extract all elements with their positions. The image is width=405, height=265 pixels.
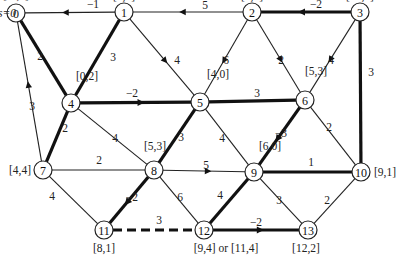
edge-weight-10-13: 2	[324, 194, 330, 206]
edge-weight-1-5: 4	[174, 54, 180, 66]
node-label-11: [8,1]	[93, 242, 115, 255]
node-11: 11	[95, 221, 113, 239]
edge-weight-4-7: 2	[62, 122, 68, 134]
edge-4-5	[80, 102, 191, 103]
edge-weight-7-11: 4	[49, 190, 55, 202]
node-label-13: [12,2]	[292, 242, 320, 255]
edge-9-12	[210, 179, 248, 223]
edge-7-11	[49, 176, 97, 223]
edge-weight-12-13: −2	[250, 216, 262, 228]
edge-weight-4-5: −2	[126, 87, 138, 99]
edge-weight-5-9: 4	[219, 132, 225, 144]
edge-weight-7-8: 2	[96, 154, 102, 166]
node-7: 7	[34, 161, 52, 179]
node-12: 12	[195, 221, 213, 239]
node-id: 10	[355, 166, 367, 180]
node-id: 9	[251, 166, 257, 180]
node-6: 6	[296, 91, 314, 109]
edge-weight-8-11: −2	[126, 191, 138, 203]
edge-6-10	[311, 107, 356, 165]
node-label-0: [ · ,0]	[3, 0, 29, 2]
edge-weight-0-4: 2	[37, 50, 43, 62]
node-label-9: [6,0]	[259, 140, 281, 153]
node-id: 1	[121, 6, 127, 20]
edge-weight-6-10: 2	[326, 121, 332, 133]
node-label-5: [4,0]	[207, 68, 229, 81]
edge-weight-4-8: 4	[112, 132, 118, 144]
node-id: 7	[40, 164, 46, 178]
edge-weight-2-6: 2	[278, 54, 284, 66]
edge-weight-2-5: 6	[223, 54, 229, 66]
node-id: 11	[98, 224, 110, 238]
edge-weight-5-6: 3	[254, 87, 260, 99]
edge-weight-3-2: −2	[310, 0, 322, 10]
source-label: s=0	[0, 7, 16, 19]
edge-weight-3-6: 4	[328, 54, 334, 66]
node-id: 13	[302, 224, 314, 238]
node-1: 1	[115, 3, 133, 21]
edge-4-7	[46, 111, 67, 161]
node-5: 5	[191, 93, 209, 111]
edge-weight-2-1: 5	[202, 0, 208, 11]
edge-weight-11-12: 3	[156, 214, 162, 226]
edge-5-9	[205, 109, 248, 165]
edge-weight-3-10: 3	[368, 66, 374, 78]
node-label-6: [5,3]	[305, 65, 327, 78]
node-13: 13	[299, 221, 317, 239]
shortest-path-graph: 012345678910111213 s=0 −15−22346243−2332…	[0, 0, 405, 265]
edge-weight-5-8: 3	[178, 131, 184, 143]
edge-weight-7-0: 3	[29, 100, 35, 112]
edge-weight-1-0: −1	[87, 0, 99, 10]
edge-weight-9-12: 4	[217, 189, 223, 201]
node-id: 12	[198, 224, 210, 238]
node-id: 2	[249, 6, 255, 20]
arrow-icon-3-2	[298, 8, 305, 15]
node-label-10: [9,1]	[374, 166, 396, 179]
edge-weight-9-10: 1	[308, 156, 314, 168]
node-id: 4	[68, 97, 74, 111]
arrow-icon-7-0	[26, 81, 32, 88]
edge-7-0	[18, 22, 42, 161]
edge-weight-8-12: 6	[177, 191, 183, 203]
node-2: 2	[243, 3, 261, 21]
edge-1-5	[130, 19, 194, 95]
edge-5-6	[209, 100, 296, 102]
edge-5-8	[159, 109, 195, 162]
edge-weight-8-9: 5	[203, 159, 209, 171]
edge-weight-9-13: 3	[276, 194, 282, 206]
node-4: 4	[62, 94, 80, 112]
arrow-icon-4-5	[138, 99, 145, 106]
node-10: 10	[352, 163, 370, 181]
edge-weight-1-4: 3	[110, 51, 116, 63]
node-8: 8	[145, 161, 163, 179]
node-id: 3	[357, 6, 363, 20]
edge-weight-6-9: −3	[275, 127, 287, 139]
node-id: 8	[151, 164, 157, 178]
node-label-7: [4,4]	[9, 164, 31, 177]
arrow-icon-1-0	[62, 9, 69, 15]
node-3: 3	[351, 3, 369, 21]
edges-layer	[18, 8, 361, 233]
node-id: 6	[302, 94, 308, 108]
node-label-4: [0,2]	[76, 70, 98, 83]
node-label-8: [5,3]	[144, 140, 166, 153]
edge-3-10	[360, 21, 361, 163]
node-id: 5	[197, 96, 203, 110]
edge-1-0	[25, 12, 115, 13]
edge-10-13	[314, 179, 355, 224]
node-label-12: [9,4] or [11,4]	[194, 242, 259, 255]
node-9: 9	[245, 163, 263, 181]
arrow-icon-2-1	[179, 9, 186, 15]
